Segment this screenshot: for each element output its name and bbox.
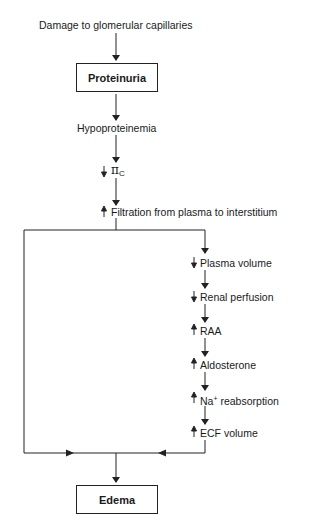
node-renal-perfusion: Renal perfusion: [200, 291, 274, 303]
node-na-reabsorption: Na+ reabsorption: [200, 393, 279, 407]
node-aldosterone: Aldosterone: [200, 359, 256, 371]
pi-symbol: π: [111, 163, 119, 177]
na-label: reabsorption: [218, 395, 279, 407]
proteinuria-label: Proteinuria: [88, 72, 146, 84]
node-edema: Edema: [76, 485, 158, 514]
edema-label: Edema: [99, 494, 135, 506]
pi-subscript: C: [119, 169, 125, 178]
arrowhead-right-icon: [66, 450, 74, 457]
node-filtration: Filtration from plasma to interstitium: [111, 206, 277, 218]
node-proteinuria: Proteinuria: [76, 63, 158, 92]
node-hypoproteinemia: Hypoproteinemia: [77, 122, 156, 134]
node-plasma-volume: Plasma volume: [200, 257, 272, 269]
node-pi-c: πC: [111, 164, 125, 180]
arrowhead-left-icon: [158, 450, 166, 457]
na-prefix: Na: [200, 395, 213, 407]
node-damage: Damage to glomerular capillaries: [39, 19, 193, 31]
node-ecf-volume: ECF volume: [200, 427, 258, 439]
node-raa: RAA: [200, 325, 222, 337]
